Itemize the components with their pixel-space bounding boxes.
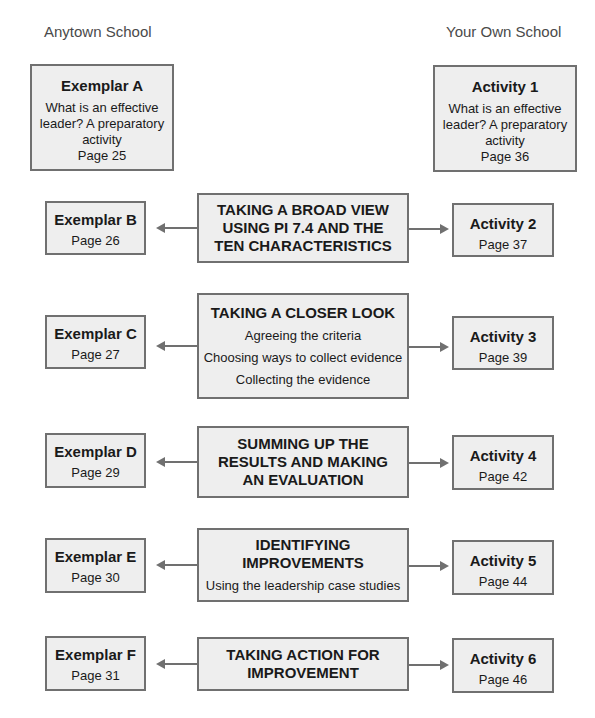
box-page: Page 42 xyxy=(454,469,552,485)
box-title: Activity 3 xyxy=(454,328,552,345)
stage-title-line: SUMMING UP THE xyxy=(199,435,407,453)
box-page: Page 26 xyxy=(47,233,144,249)
activity-box: Activity 3Page 39 xyxy=(452,316,554,370)
exemplar-box: Exemplar BPage 26 xyxy=(45,201,146,255)
stage-box: TAKING A CLOSER LOOKAgreeing the criteri… xyxy=(197,293,409,399)
stage-box: TAKING ACTION FORIMPROVEMENT xyxy=(197,637,409,691)
exemplar-box: Exemplar DPage 29 xyxy=(45,433,146,488)
arrow-left-icon xyxy=(158,564,197,566)
arrow-right-icon xyxy=(409,462,447,464)
box-page: Page 30 xyxy=(47,570,144,586)
box-line: leader? A preparatory xyxy=(32,116,172,132)
box-line: activity xyxy=(435,133,575,149)
stage-title-line: IDENTIFYING xyxy=(199,536,407,554)
box-line: leader? A preparatory xyxy=(435,117,575,133)
exemplar-box: Exemplar FPage 31 xyxy=(45,636,146,691)
stage-subline: Choosing ways to collect evidence xyxy=(199,350,407,366)
arrow-left-icon xyxy=(158,461,197,463)
box-page: Page 44 xyxy=(454,574,552,590)
box-line: activity xyxy=(32,132,172,148)
box-page: Page 46 xyxy=(454,672,552,688)
stage-title-line: RESULTS AND MAKING xyxy=(199,453,407,471)
arrow-left-icon xyxy=(158,663,197,665)
stage-box: SUMMING UP THERESULTS AND MAKINGAN EVALU… xyxy=(197,426,409,498)
box-title: Exemplar D xyxy=(47,443,144,460)
box-page: Page 27 xyxy=(47,347,144,363)
activity-box: Activity 4Page 42 xyxy=(452,435,554,490)
box-line: What is an effective xyxy=(32,100,172,116)
box-title: Activity 6 xyxy=(454,650,552,667)
box-title: Exemplar E xyxy=(47,548,144,565)
stage-title-line: TEN CHARACTERISTICS xyxy=(199,237,407,255)
column-header-own-school: Your Own School xyxy=(446,23,561,40)
exemplar-a-box: Exemplar A What is an effective leader? … xyxy=(30,64,174,171)
arrow-right-icon xyxy=(409,228,447,230)
stage-title-line: IMPROVEMENT xyxy=(199,664,407,682)
box-page: Page 37 xyxy=(454,237,552,253)
box-title: Activity 2 xyxy=(454,215,552,232)
box-title: Exemplar A xyxy=(32,77,172,94)
stage-subline: Agreeing the criteria xyxy=(199,328,407,344)
stage-title-line: USING PI 7.4 AND THE xyxy=(199,219,407,237)
arrow-right-icon xyxy=(409,346,447,348)
box-title: Exemplar C xyxy=(47,325,144,342)
arrow-right-icon xyxy=(409,565,447,567)
box-title: Exemplar F xyxy=(47,646,144,663)
box-page: Page 25 xyxy=(32,148,172,164)
box-page: Page 29 xyxy=(47,465,144,481)
arrow-right-icon xyxy=(409,664,447,666)
stage-box: TAKING A BROAD VIEWUSING PI 7.4 AND THET… xyxy=(197,193,409,263)
box-title: Activity 1 xyxy=(435,78,575,95)
box-line: What is an effective xyxy=(435,101,575,117)
box-page: Page 36 xyxy=(435,149,575,165)
stage-title-line: IMPROVEMENTS xyxy=(199,554,407,572)
exemplar-box: Exemplar EPage 30 xyxy=(45,538,146,593)
stage-subline: Collecting the evidence xyxy=(199,372,407,388)
box-page: Page 39 xyxy=(454,350,552,366)
box-page: Page 31 xyxy=(47,668,144,684)
stage-subline: Using the leadership case studies xyxy=(199,578,407,594)
exemplar-box: Exemplar CPage 27 xyxy=(45,315,146,369)
activity-box: Activity 5Page 44 xyxy=(452,540,554,595)
stage-title-line: AN EVALUATION xyxy=(199,471,407,489)
activity-box: Activity 6Page 46 xyxy=(452,638,554,693)
stage-title-line: TAKING A BROAD VIEW xyxy=(199,201,407,219)
box-title: Activity 5 xyxy=(454,552,552,569)
stage-box: IDENTIFYINGIMPROVEMENTSUsing the leaders… xyxy=(197,528,409,602)
activity-1-box: Activity 1 What is an effective leader? … xyxy=(433,65,577,172)
box-title: Exemplar B xyxy=(47,211,144,228)
box-title: Activity 4 xyxy=(454,447,552,464)
arrow-left-icon xyxy=(158,345,197,347)
arrow-left-icon xyxy=(158,227,197,229)
stage-title-line: TAKING ACTION FOR xyxy=(199,646,407,664)
column-header-anytown: Anytown School xyxy=(44,23,152,40)
stage-title-line: TAKING A CLOSER LOOK xyxy=(199,304,407,322)
activity-box: Activity 2Page 37 xyxy=(452,203,554,257)
